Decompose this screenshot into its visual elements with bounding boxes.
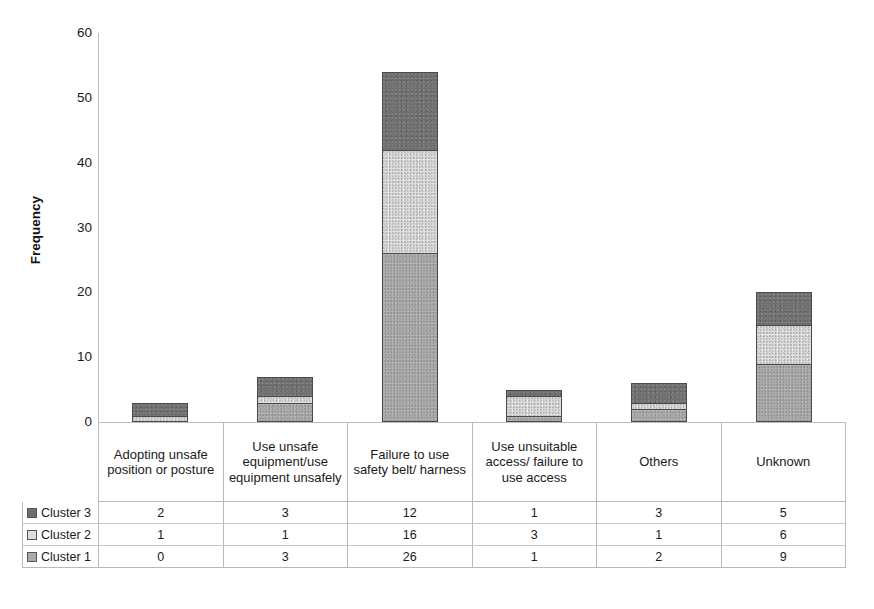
bar-segment-cluster-2[interactable]	[132, 416, 188, 422]
table-cell-value: 3	[224, 502, 349, 523]
category-label: Use unsuitable access/ failure to use ac…	[473, 423, 598, 501]
table-cell-value: 16	[348, 524, 473, 545]
category-label: Unknown	[722, 423, 846, 501]
legend-swatch-icon	[27, 530, 37, 540]
bar-segment-cluster-1[interactable]	[257, 403, 313, 422]
category-label: Others	[597, 423, 722, 501]
category-label-band: Adopting unsafe position or postureUse u…	[98, 423, 846, 502]
bar-stack[interactable]	[257, 377, 313, 422]
table-cell-value: 26	[348, 546, 473, 568]
table-row: Cluster 32312135	[23, 502, 845, 524]
bar-slot	[223, 33, 348, 422]
table-cell-value: 3	[473, 524, 598, 545]
y-axis-tick-label: 10	[58, 350, 92, 364]
category-label: Failure to use safety belt/ harness	[348, 423, 473, 501]
legend-cell[interactable]: Cluster 3	[23, 502, 99, 523]
y-axis-title: Frequency	[24, 160, 46, 300]
table-row: Cluster 10326129	[23, 546, 845, 568]
table-cell-value: 1	[473, 502, 598, 523]
y-axis-tick-label: 0	[58, 415, 92, 429]
table-cell-value: 1	[597, 524, 722, 545]
table-cell-value: 12	[348, 502, 473, 523]
table-cell-value: 1	[473, 546, 598, 568]
bar-stack[interactable]	[132, 403, 188, 422]
table-cell-value: 2	[99, 502, 224, 523]
table-cell-value: 6	[722, 524, 846, 545]
bar-segment-cluster-1[interactable]	[506, 416, 562, 422]
legend-label: Cluster 1	[41, 550, 91, 564]
legend-label: Cluster 2	[41, 528, 91, 542]
table-cell-value: 3	[224, 546, 349, 568]
bar-segment-cluster-2[interactable]	[756, 325, 812, 364]
table-row: Cluster 21116316	[23, 524, 845, 546]
category-label: Use unsafe equipment/use equipment unsaf…	[224, 423, 349, 501]
legend-swatch-icon	[27, 508, 37, 518]
bar-slot	[98, 33, 223, 422]
bar-segment-cluster-3[interactable]	[756, 292, 812, 324]
bar-segment-cluster-1[interactable]	[756, 364, 812, 422]
bar-segment-cluster-2[interactable]	[506, 396, 562, 415]
bar-stack[interactable]	[506, 390, 562, 422]
category-label: Adopting unsafe position or posture	[99, 423, 224, 501]
table-cell-value: 2	[597, 546, 722, 568]
table-cell-value: 1	[224, 524, 349, 545]
bar-slot	[347, 33, 472, 422]
data-table: Cluster 32312135Cluster 21116316Cluster …	[22, 502, 846, 568]
bar-stack[interactable]	[756, 292, 812, 422]
y-axis-tick-label: 60	[58, 26, 92, 40]
table-cell-value: 9	[722, 546, 846, 568]
bar-segment-cluster-3[interactable]	[631, 383, 687, 402]
bar-slot	[597, 33, 722, 422]
bar-slot	[472, 33, 597, 422]
bar-segment-cluster-3[interactable]	[132, 403, 188, 416]
y-axis-tick-label: 50	[58, 91, 92, 105]
table-cell-value: 5	[722, 502, 846, 523]
table-cell-value: 3	[597, 502, 722, 523]
legend-label: Cluster 3	[41, 506, 91, 520]
table-cell-value: 1	[99, 524, 224, 545]
bar-segment-cluster-1[interactable]	[631, 409, 687, 422]
legend-cell[interactable]: Cluster 2	[23, 524, 99, 545]
y-axis-tick-label: 40	[58, 156, 92, 170]
bar-segment-cluster-2[interactable]	[382, 150, 438, 254]
y-axis-title-label: Frequency	[28, 196, 43, 264]
bar-stack[interactable]	[382, 72, 438, 422]
bar-segment-cluster-3[interactable]	[382, 72, 438, 150]
y-axis-tick-label: 30	[58, 221, 92, 235]
y-axis-tick-label: 20	[58, 285, 92, 299]
bar-slot	[721, 33, 846, 422]
legend-cell[interactable]: Cluster 1	[23, 546, 99, 568]
bar-segment-cluster-3[interactable]	[257, 377, 313, 396]
plot-area	[98, 33, 846, 422]
table-cell-value: 0	[99, 546, 224, 568]
bar-segment-cluster-1[interactable]	[382, 253, 438, 422]
chart-figure: Frequency 6050403020100 Adopting unsafe …	[0, 0, 874, 609]
bar-stack[interactable]	[631, 383, 687, 422]
legend-swatch-icon	[27, 552, 37, 562]
